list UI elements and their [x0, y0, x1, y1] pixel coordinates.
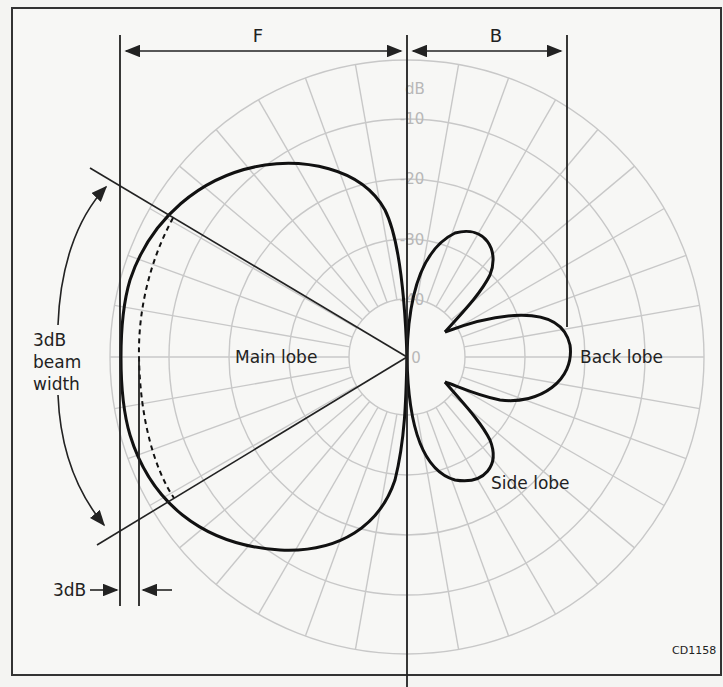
grid-label-20: -20 — [400, 170, 425, 188]
figure-frame — [12, 8, 721, 675]
antenna-radiation-pattern-diagram: dB -10 -20 -30 -40 0 F B 3dB beam width — [0, 0, 723, 687]
back-dimension-label: B — [490, 25, 502, 46]
svg-text:3dB: 3dB — [33, 330, 66, 350]
back-lobe-label: Back lobe — [580, 347, 663, 367]
grid-label-30: -30 — [400, 231, 425, 249]
side-lobe-label: Side lobe — [491, 473, 570, 493]
grid-label-10: -10 — [400, 110, 425, 128]
front-dimension-label: F — [253, 25, 263, 46]
grid-label-0: 0 — [411, 349, 421, 367]
grid-unit-label: dB — [405, 80, 425, 98]
svg-text:width: width — [33, 374, 80, 394]
main-lobe-label: Main lobe — [235, 347, 317, 367]
figure-id-label: CD1158 — [672, 644, 716, 657]
svg-text:beam: beam — [33, 352, 81, 372]
three-db-marker-label: 3dB — [53, 580, 86, 600]
